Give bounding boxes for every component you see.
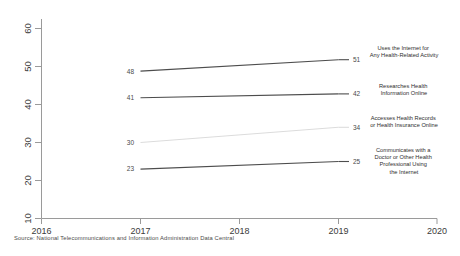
y-tick-label-60: 60 [22, 23, 33, 34]
series-label-communicates-doctor: Communicates with a Doctor or Other Heal… [375, 147, 434, 175]
source-note: Source: National Telecommunications and … [14, 235, 234, 241]
y-tick-label-10: 10 [22, 213, 33, 224]
y-tick-label-50: 50 [22, 61, 33, 72]
y-axis-ticks [35, 29, 42, 219]
series-line-communicates-doctor [141, 162, 339, 170]
series-start-value-accesses-records: 30 [127, 139, 135, 146]
series-label-researches-health: Researches Health Information Online [379, 83, 429, 96]
y-tick-label-30: 30 [22, 137, 33, 148]
series-end-value-accesses-records: 34 [353, 124, 361, 131]
line-chart: 60 50 40 30 20 10 2016 2017 2018 2019 20… [0, 0, 460, 256]
y-tick-label-40: 40 [22, 99, 33, 110]
series-start-value-uses-internet: 48 [127, 68, 135, 75]
x-tick-label-2019: 2019 [328, 226, 348, 236]
series-label-accesses-records: Accesses Health Records or Health Insura… [370, 115, 438, 128]
x-axis-ticks [42, 219, 438, 225]
chart-container: 60 50 40 30 20 10 2016 2017 2018 2019 20… [0, 0, 460, 256]
series-line-uses-internet [141, 60, 339, 71]
y-tick-label-20: 20 [22, 175, 33, 186]
series-line-accesses-records [141, 127, 339, 142]
series-end-value-researches-health: 42 [353, 90, 361, 97]
x-tick-label-2020: 2020 [427, 226, 447, 236]
series-end-value-uses-internet: 51 [353, 56, 361, 63]
series-line-researches-health [141, 94, 339, 98]
series-label-uses-internet: Uses the Internet for Any Health-Related… [370, 45, 439, 58]
series-start-value-communicates-doctor: 23 [127, 165, 135, 172]
series-end-value-communicates-doctor: 25 [353, 158, 361, 165]
series-start-value-researches-health: 41 [127, 94, 135, 101]
